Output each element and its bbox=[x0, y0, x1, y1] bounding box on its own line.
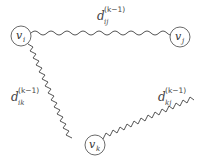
edge-label-ij-subscript: ij bbox=[104, 18, 109, 26]
edge-label-kj-subscript: kj bbox=[165, 99, 172, 107]
node-vj-label: v bbox=[175, 30, 182, 43]
edge-kj bbox=[103, 97, 194, 139]
node-vj: v j bbox=[170, 27, 190, 47]
edge-label-ik-subscript: ik bbox=[18, 99, 24, 107]
edge-label-ik-superscript: (k−1) bbox=[18, 86, 39, 95]
edge-label-ik: d ik (k−1) bbox=[11, 86, 39, 107]
edge-ij bbox=[31, 31, 173, 35]
node-vk-label: v bbox=[89, 138, 96, 151]
edge-label-ij-superscript: (k−1) bbox=[104, 5, 125, 14]
node-vk: v k bbox=[85, 135, 105, 155]
node-vi: v i bbox=[11, 26, 31, 46]
edge-label-kj: d kj (k−1) bbox=[158, 86, 186, 107]
shortest-path-diagram: v i v j v k d ij (k−1) d ik (k−1) d kj (… bbox=[0, 0, 202, 159]
edge-label-kj-superscript: (k−1) bbox=[165, 86, 186, 95]
node-vi-subscript: i bbox=[23, 36, 25, 44]
node-vi-label: v bbox=[16, 29, 23, 42]
node-vk-subscript: k bbox=[96, 145, 100, 153]
edge-label-ij: d ij (k−1) bbox=[97, 5, 125, 26]
